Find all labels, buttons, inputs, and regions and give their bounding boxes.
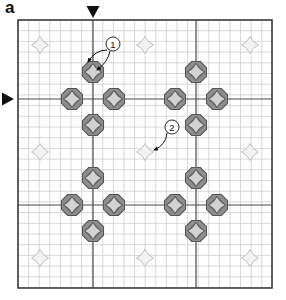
strong-spot (62, 195, 83, 216)
strong-spot (165, 195, 186, 216)
strong-spot (186, 115, 207, 136)
strong-spot (186, 168, 207, 189)
strong-spot (62, 89, 83, 110)
strong-spot (207, 89, 228, 110)
strong-spot (83, 168, 104, 189)
strong-spot (186, 221, 207, 242)
strong-spot (83, 115, 104, 136)
strong-spot (104, 89, 125, 110)
strong-spot (165, 89, 186, 110)
strong-spot (186, 62, 207, 83)
strong-spot (104, 195, 125, 216)
diffraction-plot-svg: 12 (0, 0, 286, 300)
strong-spot (83, 62, 104, 83)
strong-spot (83, 221, 104, 242)
diffraction-plot: 12 (0, 0, 286, 300)
figure-panel-a: a 12 (0, 0, 286, 300)
annotation-label: 1 (110, 39, 115, 50)
right-triangle-marker (2, 93, 14, 106)
annotation-label: 2 (169, 122, 174, 133)
down-triangle-marker (87, 6, 100, 18)
strong-spot (207, 195, 228, 216)
